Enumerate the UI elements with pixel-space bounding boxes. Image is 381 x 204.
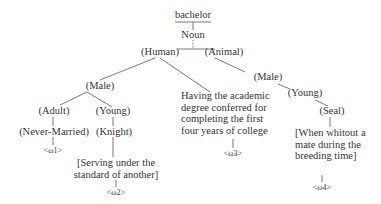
- sense-omega-3: <ω3>: [220, 148, 246, 160]
- sense-omega-4: <ω4>: [309, 182, 335, 194]
- node-young-animal: (Young): [282, 87, 328, 99]
- node-never-married: (Never-Married): [14, 126, 94, 138]
- node-adult: (Adult): [34, 105, 74, 117]
- sense-omega-1: <ω1>: [40, 145, 66, 157]
- pos-label: Noun: [178, 29, 208, 41]
- distinguisher-academic: Having the academic degree conferred for…: [181, 90, 285, 136]
- root-word: bachelor: [170, 9, 216, 21]
- sense-omega-2: <ω2>: [103, 187, 129, 199]
- node-male-human: (Male): [82, 80, 118, 92]
- distinguisher-serving: [Serving under the standard of another]: [68, 157, 164, 180]
- node-animal: (Animal): [200, 46, 248, 58]
- node-male-animal: (Male): [250, 71, 286, 83]
- node-seal: (Seal): [315, 105, 349, 117]
- distinguisher-breeding: [When whitout a mate during the breeding…: [295, 127, 379, 162]
- node-human: (Human): [138, 46, 182, 58]
- node-young-human: (Young): [90, 105, 136, 117]
- node-knight: (Knight): [92, 126, 136, 138]
